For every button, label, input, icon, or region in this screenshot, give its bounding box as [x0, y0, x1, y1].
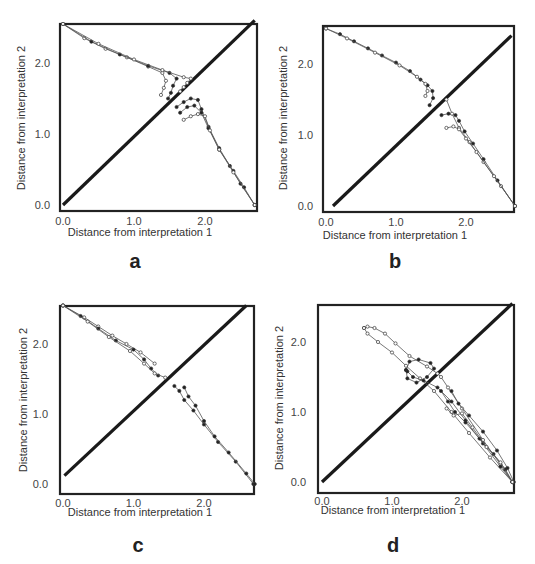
filled-point-marker	[454, 114, 457, 117]
filled-point-marker	[446, 400, 449, 403]
filled-point-marker	[417, 358, 420, 361]
panel-d: 0.01.02.00.01.02.0Distance from interpre…	[273, 304, 515, 557]
open-point-marker	[366, 332, 369, 335]
open-point-marker	[196, 113, 199, 116]
y-axis-title: Distance from interpretation 2	[273, 326, 285, 470]
open-point-marker	[179, 90, 182, 93]
filled-point-marker	[432, 367, 435, 370]
open-point-marker	[218, 148, 221, 151]
y-tick-label: 2.0	[291, 336, 306, 348]
filled-point-marker	[411, 375, 414, 378]
trajectory-upper-1	[326, 29, 433, 106]
trajectory-upper-1	[63, 24, 166, 95]
filled-point-marker	[183, 386, 186, 389]
open-point-marker	[499, 461, 502, 464]
filled-point-marker	[432, 96, 435, 99]
panel-label: d	[387, 534, 399, 556]
plot-frame	[60, 306, 254, 494]
open-point-marker	[432, 389, 435, 392]
filled-point-marker	[406, 370, 409, 373]
filled-point-marker	[408, 360, 411, 363]
open-point-marker	[445, 126, 448, 129]
open-point-marker	[189, 77, 192, 80]
filled-point-marker	[506, 466, 509, 469]
filled-point-marker	[440, 114, 443, 117]
filled-point-marker	[175, 105, 178, 108]
filled-point-marker	[245, 472, 248, 475]
filled-point-marker	[166, 97, 169, 100]
trajectory-upper-2	[326, 29, 428, 97]
open-point-marker	[383, 332, 386, 335]
filled-point-marker	[428, 104, 431, 107]
plot-frame	[318, 305, 514, 493]
plot-frame	[323, 26, 514, 212]
open-point-marker	[511, 480, 514, 483]
plot-frame	[60, 24, 257, 211]
panel-label: b	[389, 250, 401, 272]
panel-c: 0.01.02.00.01.02.0Distance from interpre…	[17, 304, 256, 556]
open-point-marker	[485, 445, 488, 448]
filled-point-marker	[182, 100, 185, 103]
y-tick-label: 2.0	[35, 57, 50, 69]
filled-point-marker	[457, 402, 460, 405]
open-point-marker	[436, 372, 439, 375]
trajectory-lower-2	[180, 106, 255, 205]
filled-point-marker	[463, 130, 466, 133]
y-tick-label: 0.0	[35, 199, 50, 211]
open-point-marker	[182, 118, 185, 121]
open-point-marker	[159, 93, 162, 96]
x-axis-title: Distance from interpretation 1	[323, 229, 467, 241]
filled-point-marker	[425, 375, 428, 378]
filled-point-marker	[253, 482, 256, 485]
open-point-marker	[253, 203, 256, 206]
open-point-marker	[457, 128, 460, 131]
filled-point-marker	[183, 398, 186, 401]
filled-point-marker	[464, 421, 467, 424]
open-point-marker	[208, 129, 211, 132]
filled-point-marker	[200, 108, 203, 111]
open-point-marker	[366, 325, 369, 328]
open-point-marker	[111, 334, 114, 337]
open-point-marker	[132, 58, 135, 61]
y-tick-label: 0.0	[291, 476, 306, 488]
open-point-marker	[398, 64, 401, 67]
y-tick-label: 1.0	[33, 408, 48, 420]
open-point-marker	[415, 75, 418, 78]
filled-point-marker	[447, 112, 450, 115]
filled-point-marker	[132, 348, 135, 351]
open-point-marker	[182, 86, 185, 89]
y-axis-title: Distance from interpretation 2	[15, 46, 27, 190]
open-point-marker	[232, 171, 235, 174]
open-point-marker	[492, 175, 495, 178]
diagonal-line	[322, 304, 512, 483]
open-point-marker	[464, 137, 467, 140]
x-axis-title: Distance from interpretation 1	[68, 506, 212, 518]
open-point-marker	[445, 98, 448, 101]
open-point-marker	[376, 340, 379, 343]
filled-point-marker	[457, 119, 460, 122]
filled-point-marker	[169, 91, 172, 94]
open-point-marker	[390, 351, 393, 354]
filled-point-marker	[439, 389, 442, 392]
filled-point-marker	[194, 404, 197, 407]
filled-point-marker	[186, 105, 189, 108]
open-point-marker	[128, 349, 131, 352]
open-point-marker	[452, 414, 455, 417]
filled-point-marker	[202, 419, 205, 422]
x-tick-label: 2.0	[458, 216, 473, 228]
filled-point-marker	[495, 449, 498, 452]
open-point-marker	[445, 407, 448, 410]
open-point-marker	[373, 326, 376, 329]
open-point-marker	[446, 386, 449, 389]
filled-point-marker	[187, 395, 190, 398]
open-point-marker	[373, 51, 376, 54]
open-point-marker	[426, 89, 429, 92]
open-point-marker	[61, 22, 64, 25]
open-point-marker	[424, 82, 427, 85]
panel-a: 0.01.02.00.01.02.0Distance from interpre…	[15, 20, 257, 272]
x-tick-label: 1.0	[388, 216, 403, 228]
open-point-marker	[153, 362, 156, 365]
open-point-marker	[186, 81, 189, 84]
open-point-marker	[424, 94, 427, 97]
y-tick-label: 0.0	[298, 200, 313, 212]
